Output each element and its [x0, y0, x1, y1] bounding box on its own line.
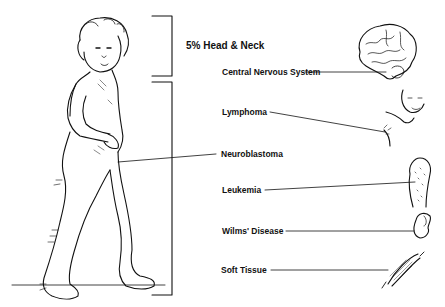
head-neck-bracket: [152, 16, 172, 76]
wilms-disease-label: Wilms' Disease: [222, 226, 283, 236]
body-bracket: [152, 82, 172, 295]
neuroblastoma-label: Neuroblastoma: [221, 149, 283, 159]
brain-icon: [359, 24, 416, 79]
leukemia-label: Leukemia: [222, 185, 261, 195]
cns-label: Central Nervous System: [222, 67, 320, 77]
lymphoma-leader: [270, 112, 385, 132]
lymphoma-label: Lymphoma: [222, 107, 267, 117]
leukemia-leader: [265, 182, 415, 190]
soft-tissue-label: Soft Tissue: [221, 265, 267, 275]
child-figure: [12, 18, 165, 299]
neck-lymph-node-icon: [384, 90, 424, 146]
neuroblastoma-leader: [118, 154, 216, 162]
pediatric-cancer-sites-diagram: 5% Head & Neck Central Nervous System Ly…: [0, 0, 445, 307]
head-neck-label: 5% Head & Neck: [186, 41, 264, 51]
kidney-icon: [414, 213, 431, 238]
